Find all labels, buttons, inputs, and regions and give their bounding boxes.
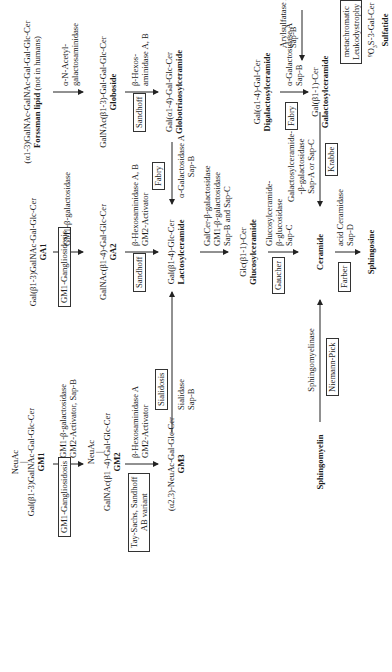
node-digalactosylceramide: Gal(α1-4)-Gal-Cer Digalactosylceramide [252, 32, 272, 152]
enzyme-globotriaosyl-to-lactosyl: α-Galactosidase A Sap-B [176, 135, 196, 198]
enzyme-forssman-to-globoside: α-N-Acetyl- galactosaminidase [60, 23, 80, 86]
node-gm3: (α2,3)-NeuAc-Gal-Glc-Cer GM3 [166, 404, 186, 524]
node-gm1: NeuAc | Gal(β1-3)GalNAc-Gal-Glc-Cer GM1 [10, 392, 46, 532]
enzyme-sphingomyelin-to-ceramide: Sphingomyelinase [306, 310, 316, 410]
node-globoside: GalNAc(β1-3)-Gal-Gal-Glc-Cer Globoside [98, 22, 118, 162]
node-glucosylceramide: Glc(β1-1)-Cer Glucosylceramide [238, 202, 258, 302]
forssman-name: Forssman lipid (not in humans) [32, 12, 42, 172]
forssman-formula: (α1-3)GalNAc-GalNAc-Gal-Gal-Glc-Cer [22, 12, 32, 172]
disease-metachromatic-leukodystrophy: metachromatic Leukodystrophy [340, 0, 362, 64]
disease-fabry-a: Fabry [152, 162, 165, 190]
node-sphingosine: Sphingosine [366, 212, 376, 292]
node-ceramide: Ceramide [315, 220, 325, 284]
enzyme-galactosyl-to-ceramide: Galactosylceramide- -β-galactosidase Sap… [286, 131, 316, 202]
disease-gm1-gangliosidosis-a: GM1-Gangliosidosis [58, 457, 71, 537]
disease-niemann-pick: Niemann-Pick [326, 338, 339, 396]
sphingolipid-pathway-diagram: (α1-3)GalNAc-GalNAc-Gal-Gal-Glc-Cer Fors… [0, 0, 392, 672]
enzyme-lactosyl-to-glucosyl: GalCer-β-galactosidase GM1-β-galactosida… [202, 165, 232, 246]
enzyme-ga1-to-ga2: GM1-β-galactosidase [62, 172, 72, 246]
enzyme-sulfatide-to-galactosyl: Arylsulfatase A Sap-B [278, 0, 298, 48]
node-gm2: NeuAc | GalNAc(β1 -4)-Gal-Glc-Cer GM2 [86, 392, 122, 532]
enzyme-globoside-to-globotriaosyl: β-Hexos- aminidase A, B [130, 33, 150, 86]
disease-fabry-b: Fabry [285, 102, 298, 130]
node-ga2: GalNAc(β1-4)-Gal-Glc-Cer GA2 [98, 192, 118, 312]
enzyme-ceramide-to-sphingosine: acid Ceramidase Sap-D [335, 189, 355, 246]
arrow-layer [0, 0, 392, 672]
node-lactosylceramide: Gal(β1-4)-Glc-Cer Lactosylceramide [166, 202, 186, 302]
node-ga1: Gal(β1-3)GalNAc-Gal-Glc-Cer GA1 [28, 192, 48, 312]
node-sulfatide: ⁹O3S-3-Gal-Cer Sulfatide [366, 0, 390, 60]
node-galactosylceramide: Gal(β1-1)-Cer Galactosylceramide [310, 42, 330, 142]
disease-farber: Farber [338, 262, 351, 292]
node-globotriaosylceramide: Gal(α1-4)-Gal-Glc-Cer Globotriaosylceram… [164, 32, 184, 152]
enzyme-gm3-to-lactosyl: Sialidase Sap-B [176, 379, 196, 410]
disease-krabbe: Krabbe [325, 143, 338, 176]
node-sphingomyelin: Sphingomyelin [315, 422, 325, 502]
disease-gaucher: Gaucher [272, 257, 285, 294]
node-forssman: (α1-3)GalNAc-GalNAc-Gal-Gal-Glc-Cer Fors… [22, 12, 42, 172]
disease-sialidosis: Sialidosis [155, 369, 168, 410]
disease-sandhoff-a: Sandhoff [133, 253, 146, 292]
disease-tay-sachs: Tay-Sachs, Sandhoff AB variant [128, 473, 150, 552]
sulfatide-formula: ⁹O3S-3-Gal-Cer [366, 0, 380, 60]
enzyme-gm1-to-gm2: GM1-β-galactosidase GM2-Activator, Sap-B [58, 379, 78, 458]
disease-sandhoff-b: Sandhoff [133, 93, 146, 132]
enzyme-gm2-to-gm3: β-Hexosaminidase A GM2-Activator [130, 386, 150, 458]
enzyme-ga2-to-lactosyl: β-Hexosaminidase A, B GM2-Activator [130, 164, 150, 246]
